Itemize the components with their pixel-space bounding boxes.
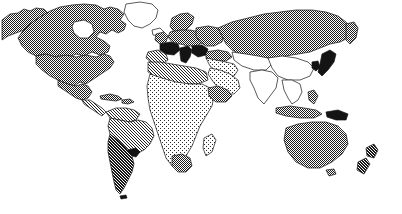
world-map-canvas [0,0,402,214]
world-map-figure: World map with dithered country shading [0,0,402,214]
region-tierra-del-fuego [120,195,127,199]
